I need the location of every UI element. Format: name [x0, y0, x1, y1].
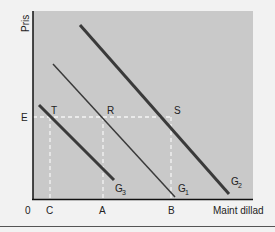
- tick-a: A: [99, 205, 106, 216]
- svg-text:3: 3: [122, 189, 126, 196]
- chart: Pris Maint dillad 0 C A B E T R S G 3 G …: [0, 0, 275, 232]
- svg-text:1: 1: [185, 189, 189, 196]
- svg-text:2: 2: [238, 182, 242, 189]
- point-s: S: [174, 105, 181, 116]
- plot-area: [33, 11, 253, 200]
- y-axis-title: Pris: [20, 15, 31, 32]
- bottom-rule: [0, 226, 275, 227]
- origin-label: 0: [25, 205, 31, 216]
- tick-b: B: [168, 205, 175, 216]
- tick-c: C: [46, 205, 53, 216]
- x-axis-title: Maint dillad: [213, 205, 264, 216]
- point-t: T: [51, 105, 57, 116]
- tick-e: E: [21, 112, 28, 123]
- point-r: R: [107, 105, 114, 116]
